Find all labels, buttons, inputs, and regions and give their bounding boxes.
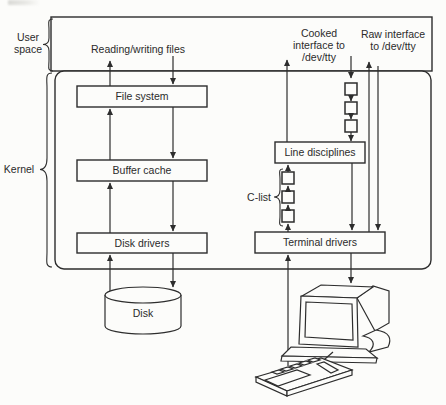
cooked-interface-label-line3: /dev/tty: [302, 51, 337, 63]
char-queue-square-2: [345, 102, 357, 114]
cooked-interface-label-line2: interface to: [293, 39, 345, 51]
char-queue-square-3: [345, 120, 357, 132]
cooked-interface-label-line1: Cooked: [301, 27, 337, 39]
raw-interface-label-line1: Raw interface: [361, 28, 425, 40]
unix-io-diagram: User space Kernel Reading/writing files …: [0, 0, 446, 405]
char-queue-square-1: [345, 83, 357, 95]
c-list-label: C-list: [247, 191, 271, 203]
clist-square-3: [282, 210, 294, 222]
terminal-monitor: [281, 285, 390, 363]
monitor-screen: [305, 302, 353, 340]
disk-drivers-label: Disk drivers: [115, 237, 170, 249]
clist-square-1: [282, 172, 294, 184]
disk-label: Disk: [133, 307, 154, 319]
user-space-label-line1: User: [17, 31, 40, 43]
raw-interface-label-line2: to /dev/tty: [370, 40, 416, 52]
monitor-rear-foot: [363, 330, 390, 352]
line-disciplines-label: Line disciplines: [284, 146, 355, 158]
kernel-label: Kernel: [4, 163, 34, 175]
reading-writing-files-label: Reading/writing files: [91, 43, 185, 55]
disk-cylinder: Disk: [105, 287, 181, 334]
buffer-cache-label: Buffer cache: [113, 164, 172, 176]
file-system-label: File system: [115, 90, 168, 102]
terminal-drivers-label: Terminal drivers: [283, 236, 357, 248]
user-space-label-line2: space: [14, 43, 42, 55]
diagram-page: User space Kernel Reading/writing files …: [0, 0, 446, 405]
clist-square-2: [282, 191, 294, 203]
kernel-brace: [40, 73, 52, 267]
